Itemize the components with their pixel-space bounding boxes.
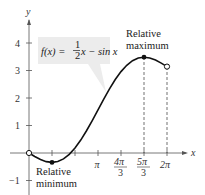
- x-tick-2pi: 2π: [160, 159, 171, 170]
- relative-minimum-label-2: minimum: [36, 178, 77, 189]
- open-endpoint-start: [26, 150, 31, 155]
- relative-maximum-label-1: Relative: [126, 28, 161, 39]
- y-axis-label: y: [25, 6, 31, 17]
- y-tick-3: 3: [15, 65, 20, 76]
- y-tick-2: 2: [15, 93, 20, 104]
- open-endpoint-end: [164, 64, 169, 69]
- y-tick-1: 1: [15, 120, 20, 131]
- x-tick-5pi-den: 3: [141, 167, 146, 178]
- y-tick-neg1: −1: [9, 175, 20, 186]
- relative-maximum-point: [142, 55, 147, 60]
- function-plot: f(x) = 1 2 x − sin x y x 4 3 2 1 −1 π 4π…: [0, 0, 205, 195]
- x-axis-arrow-icon: [182, 151, 188, 155]
- relative-maximum-label-2: maximum: [126, 40, 169, 51]
- x-tick-4pi-den: 3: [118, 167, 123, 178]
- function-label-half-num: 1: [75, 39, 80, 50]
- function-label-prefix: f(x) =: [41, 46, 65, 58]
- y-axis-arrow-icon: [27, 19, 31, 25]
- x-tick-pi: π: [95, 159, 101, 170]
- y-tick-4: 4: [15, 38, 20, 49]
- x-tick-5pi-num: 5π: [137, 156, 148, 167]
- x-axis-label: x: [190, 147, 196, 158]
- relative-minimum-label-1: Relative: [36, 166, 71, 177]
- function-label-suffix: x − sin x: [80, 46, 118, 57]
- relative-minimum-point: [50, 160, 55, 165]
- x-tick-4pi-num: 4π: [114, 156, 125, 167]
- function-label-half-den: 2: [75, 50, 80, 61]
